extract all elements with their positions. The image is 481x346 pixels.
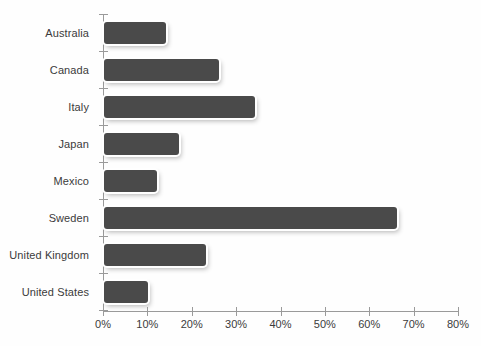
bar-chart: AustraliaCanadaItalyJapanMexicoSwedenUni… xyxy=(0,0,481,346)
bar-row xyxy=(104,199,459,236)
x-axis-tick xyxy=(236,307,237,316)
bar-row xyxy=(104,51,459,88)
bar xyxy=(104,22,166,44)
bar xyxy=(104,96,255,118)
bar-row xyxy=(104,125,459,162)
y-axis-category-labels: AustraliaCanadaItalyJapanMexicoSwedenUni… xyxy=(0,14,96,310)
bar-row xyxy=(104,88,459,125)
x-axis-tick-label: 60% xyxy=(358,318,380,330)
x-axis-line xyxy=(103,311,459,312)
category-label: United States xyxy=(0,273,96,310)
x-axis-tick-label: 20% xyxy=(181,318,203,330)
category-label: United Kingdom xyxy=(0,236,96,273)
x-axis-tick-labels: 0%10%20%30%40%50%60%70%80% xyxy=(103,318,459,334)
x-axis-tick xyxy=(281,307,282,316)
x-axis-tick xyxy=(147,307,148,316)
x-axis-tick-label: 30% xyxy=(225,318,247,330)
x-axis-tick xyxy=(192,307,193,316)
bar-row xyxy=(104,14,459,51)
category-label: Sweden xyxy=(0,199,96,236)
x-axis-tick-label: 50% xyxy=(314,318,336,330)
bar-row xyxy=(104,236,459,273)
bar xyxy=(104,281,148,303)
x-axis-tick-label: 40% xyxy=(269,318,291,330)
bar xyxy=(104,133,179,155)
category-label: Mexico xyxy=(0,162,96,199)
bar-row xyxy=(104,162,459,199)
bar xyxy=(104,170,157,192)
x-axis-tick xyxy=(458,307,459,316)
x-axis-tick-label: 80% xyxy=(447,318,469,330)
x-axis-tick xyxy=(414,307,415,316)
x-axis-tick xyxy=(369,307,370,316)
x-axis-tick xyxy=(325,307,326,316)
category-label: Australia xyxy=(0,14,96,51)
x-axis-tick-label: 70% xyxy=(403,318,425,330)
bar-row xyxy=(104,273,459,310)
category-label: Italy xyxy=(0,88,96,125)
category-label: Japan xyxy=(0,125,96,162)
plot-area xyxy=(104,14,459,310)
bar xyxy=(104,207,397,229)
bar xyxy=(104,244,206,266)
x-axis-tick-label: 0% xyxy=(95,318,111,330)
x-axis-tick xyxy=(103,307,104,316)
x-axis-tick-label: 10% xyxy=(136,318,158,330)
bar xyxy=(104,59,219,81)
category-label: Canada xyxy=(0,51,96,88)
